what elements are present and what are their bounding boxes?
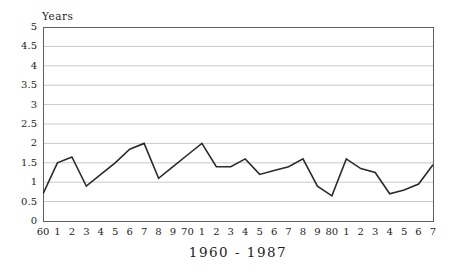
y-tick-label: 4.5 (1, 41, 37, 51)
x-tick-label: 7 (423, 227, 443, 237)
data-line-series (43, 143, 433, 195)
y-tick-label: 4 (1, 61, 37, 71)
y-tick-label: 1 (1, 177, 37, 187)
y-tick-label: 0 (1, 216, 37, 226)
plot-area (43, 27, 434, 222)
line-chart-figure: Years 54.543.532.521.510.50 601234567897… (0, 0, 458, 272)
y-tick-label: 2 (1, 138, 37, 148)
y-tick-label: 3 (1, 100, 37, 110)
y-tick-label: 3.5 (1, 80, 37, 90)
y-tick-label: 5 (1, 22, 37, 32)
y-tick-label: 1.5 (1, 158, 37, 168)
y-tick-label: 2.5 (1, 119, 37, 129)
y-axis-title: Years (42, 10, 73, 22)
y-tick-label: 0.5 (1, 197, 37, 207)
chart-title: 1960 - 1987 (43, 244, 433, 260)
